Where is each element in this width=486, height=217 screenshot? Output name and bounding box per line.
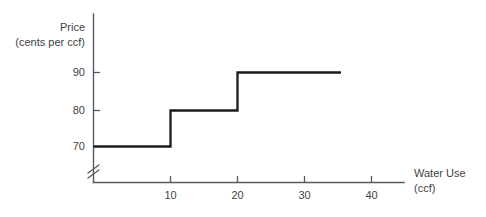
x-tick-label-10: 10 — [164, 189, 176, 201]
x-tick-label-30: 30 — [298, 189, 310, 201]
chart-screenshot: 90 80 70 10 20 30 40 Price (cents per cc… — [0, 0, 486, 217]
x-tick-label-20: 20 — [231, 189, 243, 201]
y-tick-label-70: 70 — [73, 140, 85, 152]
x-tick-label-40: 40 — [365, 189, 377, 201]
step-chart: 90 80 70 10 20 30 40 Price (cents per cc… — [0, 0, 486, 217]
x-axis-title-line1: Water Use — [414, 167, 466, 179]
y-axis-title-line1: Price — [60, 21, 85, 33]
y-axis-title-line2: (cents per ccf) — [15, 36, 85, 48]
step-function-line — [94, 73, 342, 147]
y-tick-label-80: 80 — [73, 104, 85, 116]
x-axis-title-line2: (ccf) — [414, 182, 435, 194]
y-tick-label-90: 90 — [73, 66, 85, 78]
